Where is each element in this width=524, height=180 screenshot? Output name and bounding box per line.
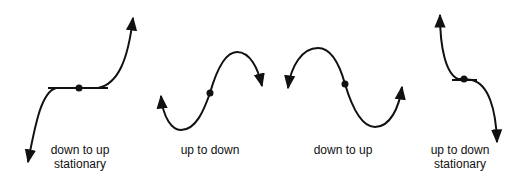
inflection-point-dot (342, 81, 349, 88)
panel-up-to-down-stationary (440, 15, 497, 142)
inflection-point-dot (76, 85, 83, 92)
panel-up-to-down (161, 52, 262, 130)
panel-down-to-up-stationary (28, 18, 133, 162)
label-line-1: up to down (431, 143, 490, 157)
inflection-point-dot (207, 90, 214, 97)
label-down-to-up: down to up (314, 143, 373, 157)
label-line-2: stationary (431, 157, 490, 171)
label-down-to-up-stationary: down to up stationary (51, 143, 110, 171)
cubic-curve (440, 15, 497, 142)
inflection-point-dot (461, 76, 468, 83)
label-line-1: up to down (181, 143, 240, 157)
panel-down-to-up (288, 48, 402, 127)
label-line-1: down to up (51, 143, 110, 157)
label-up-to-down-stationary: up to down stationary (431, 143, 490, 171)
label-line-2: stationary (51, 157, 110, 171)
label-line-1: down to up (314, 143, 373, 157)
label-up-to-down: up to down (181, 143, 240, 157)
